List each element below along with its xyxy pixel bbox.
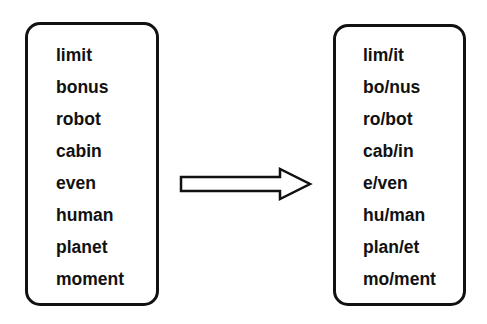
word-item: human xyxy=(56,199,124,231)
original-word-list: limit bonus robot cabin even human plane… xyxy=(56,39,124,295)
syllable-word-item: plan/et xyxy=(363,231,436,263)
original-words-box: limit bonus robot cabin even human plane… xyxy=(25,22,159,306)
word-item: even xyxy=(56,167,124,199)
syllable-word-list: lim/it bo/nus ro/bot cab/in e/ven hu/man… xyxy=(363,39,436,295)
word-item: robot xyxy=(56,103,124,135)
word-item: cabin xyxy=(56,135,124,167)
syllable-word-item: cab/in xyxy=(363,135,436,167)
syllable-word-item: lim/it xyxy=(363,39,436,71)
word-item: moment xyxy=(56,263,124,295)
syllable-word-item: hu/man xyxy=(363,199,436,231)
word-item: limit xyxy=(56,39,124,71)
syllable-word-item: mo/ment xyxy=(363,263,436,295)
syllable-word-item: e/ven xyxy=(363,167,436,199)
right-arrow-icon xyxy=(178,166,314,202)
syllable-word-item: bo/nus xyxy=(363,71,436,103)
syllable-split-box: lim/it bo/nus ro/bot cab/in e/ven hu/man… xyxy=(333,24,466,306)
word-item: planet xyxy=(56,231,124,263)
word-item: bonus xyxy=(56,71,124,103)
syllable-word-item: ro/bot xyxy=(363,103,436,135)
